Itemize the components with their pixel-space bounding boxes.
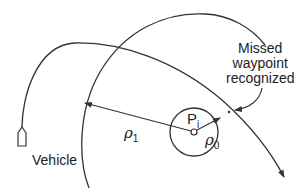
waypoint-label: Pi (187, 110, 199, 130)
callout-line-1: Missed (226, 41, 295, 56)
rho1-symbol: ρ (124, 124, 133, 142)
missed-waypoint-label: Missed waypoint recognized (226, 41, 295, 86)
rho1-label: ρ1 (124, 124, 138, 144)
rho0-subscript: 0 (214, 140, 220, 151)
rho0-symbol: ρ (205, 131, 214, 149)
crossing-point (228, 111, 231, 114)
vehicle-label: Vehicle (32, 152, 77, 168)
callout-arrow (235, 88, 262, 110)
waypoint-subscript: i (197, 119, 199, 130)
rho0-label: ρ0 (205, 131, 219, 151)
rho1-subscript: 1 (133, 133, 139, 144)
waypoint-letter: P (187, 110, 197, 127)
callout-line-2: waypoint (226, 56, 295, 71)
vehicle-icon (18, 127, 26, 146)
callout-line-3: recognized (226, 71, 295, 86)
